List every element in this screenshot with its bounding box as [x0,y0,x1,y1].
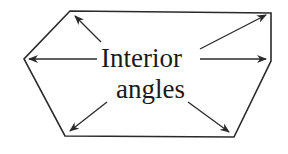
label-interior: Interior [101,45,182,72]
arrow-to-top-right-angle [200,15,266,49]
interior-angles-diagram: Interior angles [0,0,288,154]
arrow-to-bottom-right-angle [188,102,229,132]
label-angles: angles [116,76,185,103]
arrow-to-top-left-angle [75,16,101,42]
arrow-to-bottom-left-angle [70,102,107,131]
